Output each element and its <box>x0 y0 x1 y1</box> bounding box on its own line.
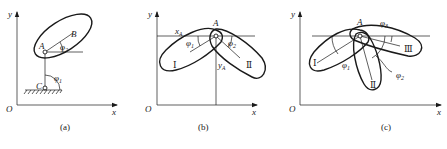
angle-phi1-label: φ1 <box>342 60 350 71</box>
body-II-label: Ⅱ <box>246 60 252 70</box>
angle-phi1-label: φ1 <box>186 38 194 49</box>
angle-arc-phi3 <box>391 36 392 42</box>
phi2-leader <box>376 56 392 72</box>
body-I-label: Ⅰ <box>313 58 317 68</box>
origin-label: O <box>6 104 13 114</box>
body-II-axis <box>360 36 372 80</box>
joint-A <box>358 34 362 38</box>
caption-b: (b) <box>198 122 209 132</box>
point-B-label: B <box>71 29 77 39</box>
joint-A <box>214 34 218 38</box>
panel-c: y x O A φ1 φ2 φ3 Ⅰ Ⅱ Ⅲ (c) <box>289 9 441 132</box>
angle-phi1-label: φ1 <box>54 73 62 84</box>
caption-c: (c) <box>381 122 391 132</box>
caption-a: (a) <box>60 122 70 132</box>
rigid-body <box>27 5 99 66</box>
angle-phi2-label: φ2 <box>228 38 236 49</box>
x-axis-label: x <box>111 107 116 117</box>
body-III-label: Ⅲ <box>404 44 413 54</box>
angle-arc-phi1 <box>198 36 200 46</box>
joint-C <box>43 86 47 90</box>
point-A-label: A <box>212 18 219 28</box>
angle-phi3-label: φ3 <box>380 18 388 29</box>
ground-hatch <box>24 90 62 94</box>
body-II-label: Ⅱ <box>370 80 376 90</box>
point-A-label: A <box>356 17 363 27</box>
coord-yA-label: yA <box>217 60 226 71</box>
body-I-label: Ⅰ <box>173 60 177 70</box>
coord-xA-label: xA <box>174 26 183 37</box>
panel-a: y x O A B C φ2 φ1 (a) <box>6 5 117 132</box>
point-A-label: A <box>38 41 45 51</box>
angle-phi2-label: φ2 <box>396 70 404 81</box>
panel-b: y x O A xA yA φ1 φ2 Ⅰ Ⅱ (b) <box>145 9 265 132</box>
y-axis-label: y <box>147 9 152 19</box>
origin-label: O <box>289 104 296 114</box>
kinematics-figure: y x O A B C φ2 φ1 (a) <box>0 0 447 149</box>
point-C-label: C <box>36 81 43 91</box>
y-axis-label: y <box>7 9 12 19</box>
x-axis-label: x <box>251 107 256 117</box>
angle-phi2-label: φ2 <box>60 42 68 53</box>
y-axis-label: y <box>290 9 295 19</box>
origin-label: O <box>145 104 152 114</box>
x-axis-label: x <box>436 107 441 117</box>
rigid-body-I <box>160 28 223 70</box>
line-AB <box>45 33 73 52</box>
